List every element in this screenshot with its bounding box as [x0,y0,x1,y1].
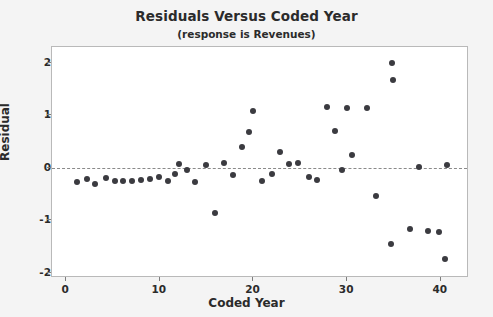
x-tick-mark [159,277,160,281]
data-point [306,174,312,180]
data-point [277,149,283,155]
data-point [344,105,350,111]
data-point [230,172,236,178]
data-point [250,108,256,114]
data-point [176,161,182,167]
data-point [388,241,394,247]
data-point [259,178,265,184]
data-point [147,176,153,182]
chart-subtitle: (response is Revenues) [0,28,493,40]
data-point [129,178,135,184]
data-point [221,160,227,166]
y-axis-ticks: 210-1-2 [23,46,51,277]
scatter-plot-figure: Residuals Versus Coded Year (response is… [0,0,493,317]
data-point [184,167,190,173]
data-point [192,179,198,185]
data-point [349,152,355,158]
data-point [120,178,126,184]
data-point [407,226,413,232]
y-axis-label: Residual [0,103,12,161]
data-point [92,181,98,187]
data-point [324,104,330,110]
x-tick-label: 40 [425,283,455,295]
data-point [239,144,245,150]
x-tick-label: 20 [237,283,267,295]
data-point [269,171,275,177]
zero-reference-line [52,168,467,169]
x-tick-mark [440,277,441,281]
data-point [295,160,301,166]
data-point [314,177,320,183]
x-tick-mark [65,277,66,281]
data-point [442,256,448,262]
data-point [444,162,450,168]
data-point [112,178,118,184]
x-axis-label: Coded Year [0,296,493,310]
plot-frame [51,46,468,277]
data-point [74,179,80,185]
x-tick-label: 30 [331,283,361,295]
data-point [212,210,218,216]
chart-title: Residuals Versus Coded Year [0,8,493,24]
x-axis-ticks: 010203040 [51,277,468,297]
data-point [172,171,178,177]
data-point [390,77,396,83]
data-point [156,174,162,180]
data-point [332,128,338,134]
x-tick-label: 10 [144,283,174,295]
data-point [165,178,171,184]
data-point [84,176,90,182]
data-point [339,167,345,173]
x-tick-mark [346,277,347,281]
data-point [416,164,422,170]
data-point [246,129,252,135]
data-point [103,175,109,181]
x-tick-mark [252,277,253,281]
data-point [389,60,395,66]
x-tick-label: 0 [50,283,80,295]
data-point [373,193,379,199]
data-point [203,162,209,168]
plot-area [52,47,467,276]
data-point [364,105,370,111]
data-point [425,228,431,234]
data-point [286,161,292,167]
data-point [138,177,144,183]
data-point [436,229,442,235]
